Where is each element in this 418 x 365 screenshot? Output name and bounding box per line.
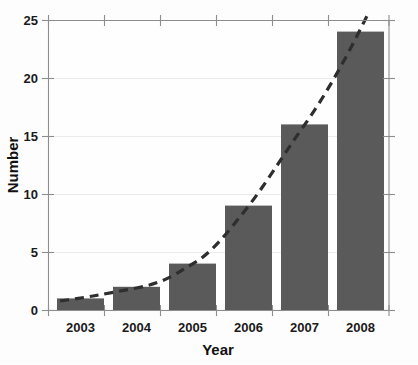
- x-tick-label-2007: 2007: [290, 320, 319, 335]
- x-axis-title: Year: [202, 341, 234, 358]
- x-tick-labels: 2003 2004 2005 2006 2007 2008: [66, 320, 375, 335]
- y-tick-label-0: 0: [31, 303, 38, 318]
- y-tick-label-15: 15: [24, 129, 38, 144]
- x-tick-label-2004: 2004: [122, 320, 152, 335]
- y-tick-labels: 0 5 10 15 20 25: [24, 13, 38, 318]
- y-axis-title: Number: [4, 137, 21, 194]
- bar-2008: [337, 32, 384, 310]
- bar-2006: [225, 206, 272, 310]
- y-tick-label-20: 20: [24, 71, 38, 86]
- x-tick-label-2003: 2003: [66, 320, 95, 335]
- chart-canvas: 0 5 10 15 20 25 2003 2004 2005 2006 2007…: [0, 0, 418, 365]
- y-tick-label-10: 10: [24, 187, 38, 202]
- y-tick-label-5: 5: [31, 245, 38, 260]
- x-tick-label-2005: 2005: [178, 320, 207, 335]
- bar-chart-figure: 0 5 10 15 20 25 2003 2004 2005 2006 2007…: [0, 0, 418, 365]
- x-tick-label-2008: 2008: [346, 320, 375, 335]
- x-tick-label-2006: 2006: [234, 320, 263, 335]
- y-tick-label-25: 25: [24, 13, 38, 28]
- bar-2005: [169, 264, 216, 310]
- bar-2007: [281, 124, 328, 310]
